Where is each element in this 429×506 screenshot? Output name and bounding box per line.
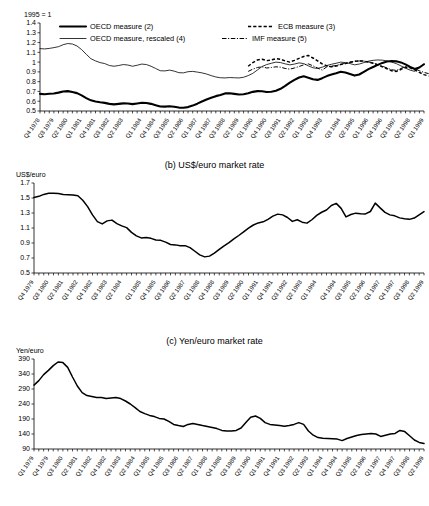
panel-c-title: (c) Yen/euro market rate [0, 336, 429, 347]
y-tick-label: 1 [32, 59, 36, 66]
legend-label: ECB measure (3) [278, 22, 335, 31]
series-line-solid [34, 362, 424, 444]
panel-a-effective-exchange-rate: 1995 = 1 0.50.60.70.80.911.11.21.31.4Q4 … [0, 0, 429, 152]
y-tick-label: 190 [18, 415, 30, 422]
panel-b-axis-unit: US$/euro [16, 171, 429, 179]
y-tick-label: 1.3 [20, 209, 30, 216]
x-tick-label: Q2 1984 [104, 279, 122, 302]
legend-item-3: IMF measure (5) [222, 34, 307, 43]
panel-b-title: (b) US$/euro market rate [0, 160, 429, 171]
y-tick-label: 0.6 [26, 98, 36, 105]
y-tick-label: 0.5 [20, 269, 30, 276]
y-tick-label: 1.1 [20, 224, 30, 231]
panel-a-plot: 0.50.60.70.80.911.11.21.31.4Q4 1978Q3 19… [0, 19, 429, 151]
panel-a-title [0, 0, 429, 11]
x-tick-label: Q2 1999 [407, 279, 425, 302]
y-tick-label: 0.9 [26, 68, 36, 75]
x-tick-label: Q1 1994 [299, 279, 317, 302]
y-tick-label: 340 [18, 370, 30, 377]
y-tick-label: 0.5 [26, 107, 36, 114]
panel-a-svg: 0.50.60.70.80.911.11.21.31.4Q4 1978Q3 19… [0, 19, 429, 151]
y-tick-label: 290 [18, 385, 30, 392]
legend-item-0: OECD measure (2) [60, 22, 153, 31]
series-line-solid [34, 193, 424, 257]
legend-item-2: OECD measure, rescaled (4) [60, 34, 185, 43]
panel-a-axis-unit: 1995 = 1 [24, 11, 429, 19]
y-tick-label: 0.7 [26, 88, 36, 95]
y-tick-label: 140 [18, 430, 30, 437]
y-tick-label: 1.7 [20, 179, 30, 186]
panel-b-svg: 0.50.70.91.11.31.51.7Q4 1979Q3 1980Q2 19… [0, 179, 429, 327]
y-tick-label: 240 [18, 400, 30, 407]
panel-c-plot: 90140190240290340390Q1 1979Q4 1979Q3 198… [0, 355, 429, 505]
y-tick-label: 1.2 [26, 39, 36, 46]
panel-c-yen-euro: (c) Yen/euro market rate Yen/euro 901401… [0, 336, 429, 506]
y-tick-label: 0.9 [20, 239, 30, 246]
legend-item-1: ECB measure (3) [248, 22, 335, 31]
y-tick-label: 0.7 [20, 254, 30, 261]
legend-label: OECD measure (2) [90, 22, 153, 31]
series-line-thin-solid [40, 44, 424, 78]
y-tick-label: 1.3 [26, 29, 36, 36]
figure-exchange-rate-panels: 1995 = 1 0.50.60.70.80.911.11.21.31.4Q4 … [0, 0, 429, 506]
legend-label: OECD measure, rescaled (4) [90, 34, 185, 43]
y-tick-label: 390 [18, 355, 30, 362]
y-tick-label: 1.1 [26, 49, 36, 56]
y-tick-label: 90 [22, 445, 30, 452]
panel-c-axis-unit: Yen/euro [16, 347, 429, 355]
y-tick-label: 1.5 [20, 194, 30, 201]
series-line-thick-solid [40, 61, 424, 108]
y-tick-label: 0.8 [26, 78, 36, 85]
panel-b-plot: 0.50.70.91.11.31.51.7Q4 1979Q3 1980Q2 19… [0, 179, 429, 327]
legend-label: IMF measure (5) [252, 34, 307, 43]
y-tick-label: 1.4 [26, 19, 36, 26]
panel-b-usd-euro: (b) US$/euro market rate US$/euro 0.50.7… [0, 160, 429, 330]
panel-c-svg: 90140190240290340390Q1 1979Q4 1979Q3 198… [0, 355, 429, 505]
